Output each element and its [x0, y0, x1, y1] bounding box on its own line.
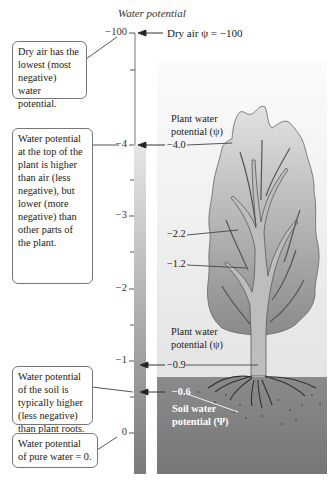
- soil-title: Soil water potential (Ψ): [172, 403, 242, 428]
- dry-air-label: Dry air ψ = −100: [167, 27, 243, 40]
- plant-top-value: −4.0: [167, 139, 186, 152]
- scale-bar: [134, 145, 146, 474]
- tick-label-neg2: −2: [97, 282, 127, 293]
- callout-soil: Water potential of the soil is typically…: [12, 366, 93, 425]
- soil-value: −0.6: [172, 386, 191, 399]
- tick-label-neg1: −1: [97, 354, 127, 365]
- tick-label-zero: 0: [97, 426, 127, 437]
- plant-top-title: Plant water potential (ψ): [171, 113, 233, 138]
- callout-pure-water: Water potential of pure water = 0.: [12, 433, 98, 468]
- tick-label-neg4: −4: [97, 138, 127, 149]
- tick-label-neg100: −100: [97, 26, 127, 37]
- plant-base-title: Plant water potential (ψ): [171, 326, 233, 351]
- callout-plant-top: Water potential at the top of the plant …: [12, 128, 93, 284]
- tick-label-neg3: −3: [97, 209, 127, 220]
- plant-base-value: −0.9: [167, 359, 186, 372]
- axis-title: Water potential: [118, 7, 186, 19]
- branch-value-2-2: −2.2: [167, 228, 186, 241]
- branch-value-1-2: −1.2: [167, 258, 186, 271]
- callout-dry-air: Dry air has the lowest (most negative) w…: [12, 41, 87, 99]
